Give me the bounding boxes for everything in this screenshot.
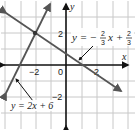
coordinate-plane: x y −2 0 2 2 −2 y = − 2 3 x + 2 3 y = 2x… — [0, 0, 136, 130]
tick-x-0: 0 — [58, 67, 63, 77]
eq2-pointer — [16, 79, 33, 101]
tick-y-2: 2 — [58, 29, 63, 39]
svg-text:2: 2 — [127, 30, 131, 37]
line-y-neg-two-thirds-x — [6, 13, 121, 91]
svg-text:3: 3 — [127, 39, 131, 46]
svg-text:x +: x + — [107, 31, 123, 43]
y-axis-label: y — [69, 1, 75, 12]
svg-text:y = −: y = − — [71, 31, 97, 43]
tick-x-neg2: −2 — [29, 67, 39, 77]
eq1-pointer — [79, 46, 93, 60]
x-axis-label: x — [121, 51, 127, 62]
svg-text:3: 3 — [101, 39, 105, 46]
equation-label-2: y = 2x + 6 — [10, 100, 53, 111]
svg-text:2: 2 — [101, 30, 105, 37]
intersection-point — [33, 31, 37, 35]
